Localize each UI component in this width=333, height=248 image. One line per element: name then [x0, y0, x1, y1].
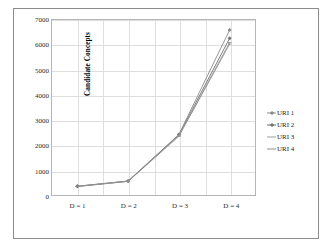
legend-item[interactable]: URI 2	[267, 119, 319, 131]
y-tick-label: 3000	[35, 117, 49, 125]
series-marker	[228, 28, 232, 32]
plot-area: Candidate Concepts 010002000300040005000…	[51, 19, 256, 196]
series-marker	[228, 44, 232, 45]
y-tick-label: 1000	[35, 168, 49, 176]
series-line	[77, 43, 229, 187]
x-tick-label: D = 1	[70, 202, 86, 210]
legend-item[interactable]: URI 4	[267, 143, 319, 155]
series-marker	[228, 36, 232, 40]
legend-swatch-icon	[267, 110, 276, 117]
legend-item[interactable]: URI 1	[267, 107, 319, 119]
series-marker	[228, 42, 232, 43]
legend-label: URI 2	[277, 121, 294, 129]
series-marker	[177, 136, 181, 137]
series-lines	[52, 20, 255, 195]
x-tick-label: D = 4	[223, 202, 239, 210]
y-tick-label: 7000	[35, 16, 49, 24]
chart-figure: Candidate Concepts 010002000300040005000…	[13, 8, 319, 239]
y-tick-label: 6000	[35, 41, 49, 49]
y-tick-label: 4000	[35, 92, 49, 100]
y-tick-label: 5000	[35, 67, 49, 75]
series-line	[77, 30, 229, 186]
legend-label: URI 3	[277, 133, 294, 141]
series-line	[77, 38, 229, 186]
y-tick-label: 2000	[35, 142, 49, 150]
legend-item[interactable]: URI 3	[267, 131, 319, 143]
series-line	[77, 44, 229, 187]
series-marker	[76, 186, 80, 187]
y-tick-label: 0	[46, 193, 50, 201]
series-marker	[126, 181, 130, 182]
legend-swatch-icon	[267, 146, 276, 153]
legend-label: URI 4	[277, 145, 294, 153]
chart-legend: URI 1URI 2URI 3URI 4	[267, 107, 319, 155]
x-tick-label: D = 3	[172, 202, 188, 210]
x-tick-label: D = 2	[121, 202, 137, 210]
legend-swatch-icon	[267, 122, 276, 129]
legend-swatch-icon	[267, 134, 276, 141]
legend-label: URI 1	[277, 109, 294, 117]
